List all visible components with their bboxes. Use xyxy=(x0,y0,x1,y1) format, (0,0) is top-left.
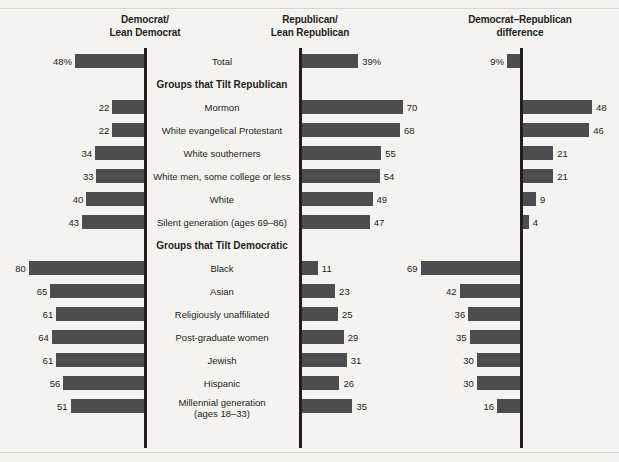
bar-difference xyxy=(507,54,520,68)
column-header-democrat: Democrat/ Lean Democrat xyxy=(60,14,230,39)
chart-row: White southerners345521 xyxy=(0,142,619,165)
row-label-line1: Millennial generation xyxy=(178,397,265,408)
bar-difference xyxy=(523,192,536,206)
row-label: Post-graduate women xyxy=(152,326,292,349)
bar-republican xyxy=(302,353,347,367)
bar-democrat xyxy=(82,215,144,229)
bar-democrat xyxy=(95,146,144,160)
column-header-republican: Republican/ Lean Republican xyxy=(225,14,395,39)
bar-difference xyxy=(460,284,520,298)
bar-difference xyxy=(421,261,520,275)
value-democrat: 22 xyxy=(99,123,110,137)
bar-difference xyxy=(523,146,553,160)
value-difference: 21 xyxy=(557,169,568,183)
row-label: Black xyxy=(152,257,292,280)
chart-row: Black801169 xyxy=(0,257,619,280)
chart-row: Hispanic562630 xyxy=(0,372,619,395)
bar-republican xyxy=(302,284,335,298)
row-label-line1: Total xyxy=(212,56,232,67)
row-label-line1: Hispanic xyxy=(204,378,240,389)
row-label-line1: Religiously unaffiliated xyxy=(175,309,269,320)
value-republican: 39% xyxy=(362,54,381,68)
chart-row: Silent generation (ages 69–86)43474 xyxy=(0,211,619,234)
value-republican: 26 xyxy=(343,376,354,390)
value-republican: 54 xyxy=(384,169,395,183)
row-label-line1: White evangelical Protestant xyxy=(162,125,282,136)
bar-republican xyxy=(302,100,403,114)
row-label-line1: Post-graduate women xyxy=(176,332,269,343)
bar-difference xyxy=(477,353,520,367)
value-republican: 68 xyxy=(404,123,415,137)
value-democrat: 61 xyxy=(43,307,54,321)
value-republican: 23 xyxy=(339,284,350,298)
chart-row: White40499 xyxy=(0,188,619,211)
bar-difference xyxy=(523,169,553,183)
chart-row: Jewish613130 xyxy=(0,349,619,372)
bar-democrat xyxy=(52,330,144,344)
row-label: Mormon xyxy=(152,96,292,119)
bar-democrat xyxy=(86,192,144,206)
bar-republican xyxy=(302,215,370,229)
bar-democrat xyxy=(50,284,144,298)
value-difference: 35 xyxy=(456,330,467,344)
bar-democrat xyxy=(63,376,144,390)
value-democrat: 61 xyxy=(43,353,54,367)
chart-row: Total48%39%9% xyxy=(0,50,619,73)
chart-row: Religiously unaffiliated612536 xyxy=(0,303,619,326)
bar-republican xyxy=(302,169,380,183)
section-heading-tilt-republican: Groups that Tilt Republican xyxy=(152,73,292,96)
row-label-line1: Silent generation (ages 69–86) xyxy=(157,217,287,228)
row-label: White evangelical Protestant xyxy=(152,119,292,142)
value-republican: 25 xyxy=(342,307,353,321)
value-difference: 9% xyxy=(490,54,504,68)
value-republican: 29 xyxy=(348,330,359,344)
section-heading-tilt-democratic: Groups that Tilt Democratic xyxy=(152,234,292,257)
column-header-democrat-line2: Lean Democrat xyxy=(110,27,181,38)
top-divider-rule xyxy=(0,8,619,9)
bar-republican xyxy=(302,399,352,413)
column-header-republican-line2: Lean Republican xyxy=(271,27,350,38)
row-label: Millennial generation(ages 18–33) xyxy=(152,395,292,431)
row-label-line2: (ages 18–33) xyxy=(194,408,250,419)
bar-difference xyxy=(523,100,592,114)
row-label-line1: Mormon xyxy=(205,102,240,113)
row-label: Total xyxy=(152,50,292,73)
row-label: White southerners xyxy=(152,142,292,165)
bar-republican xyxy=(302,146,381,160)
row-label: Silent generation (ages 69–86) xyxy=(152,211,292,234)
row-label-line1: White men, some college or less xyxy=(153,171,290,182)
value-difference: 42 xyxy=(446,284,457,298)
value-democrat: 56 xyxy=(50,376,61,390)
bottom-divider-rule xyxy=(0,452,619,453)
value-difference: 30 xyxy=(463,353,474,367)
row-label-line1: Black xyxy=(210,263,233,274)
value-difference: 30 xyxy=(463,376,474,390)
bar-democrat xyxy=(29,261,144,275)
bar-difference xyxy=(523,215,529,229)
value-democrat: 34 xyxy=(81,146,92,160)
bar-difference xyxy=(523,123,589,137)
value-difference: 36 xyxy=(455,307,466,321)
value-democrat: 33 xyxy=(83,169,94,183)
row-label: Jewish xyxy=(152,349,292,372)
value-democrat: 22 xyxy=(99,100,110,114)
bar-democrat xyxy=(75,54,144,68)
value-republican: 31 xyxy=(351,353,362,367)
bar-democrat xyxy=(56,307,144,321)
row-label-line1: White southerners xyxy=(183,148,260,159)
bar-republican xyxy=(302,261,318,275)
column-header-difference-line2: difference xyxy=(497,27,544,38)
chart-row: Mormon227048 xyxy=(0,96,619,119)
value-difference: 69 xyxy=(407,261,418,275)
bar-republican xyxy=(302,307,338,321)
value-difference: 46 xyxy=(593,123,604,137)
bar-democrat xyxy=(56,353,144,367)
value-republican: 49 xyxy=(377,192,388,206)
bar-difference xyxy=(477,376,520,390)
value-democrat: 64 xyxy=(38,330,49,344)
value-republican: 70 xyxy=(407,100,418,114)
row-label: Asian xyxy=(152,280,292,303)
bar-republican xyxy=(302,54,358,68)
value-republican: 35 xyxy=(356,399,367,413)
value-difference: 48 xyxy=(596,100,607,114)
